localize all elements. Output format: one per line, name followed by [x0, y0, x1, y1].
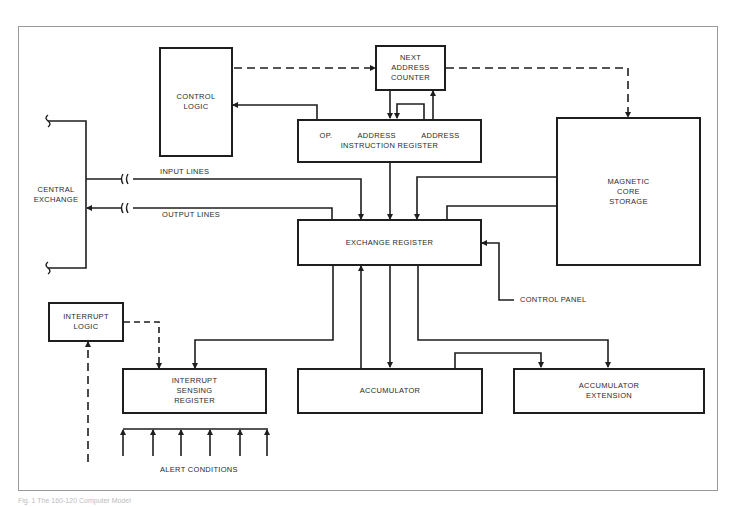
accumulator-label: ACCUMULATOR — [360, 386, 421, 396]
ir-field-address-2: ADDRESS — [421, 131, 459, 141]
accumulator-extension-label: ACCUMULATOR EXTENSION — [579, 381, 640, 401]
next-address-counter-block: NEXT ADDRESS COUNTER — [375, 45, 446, 91]
interrupt-sensing-register-block: INTERRUPT SENSING REGISTER — [122, 368, 267, 414]
control-logic-block: CONTROL LOGIC — [159, 47, 233, 157]
exchange-register-label: EXCHANGE REGISTER — [346, 238, 434, 248]
instruction-register-block: OP. ADDRESS ADDRESS INSTRUCTION REGISTER — [297, 119, 482, 163]
ir-field-address-1: ADDRESS — [358, 131, 396, 141]
figure-caption: Fig. 1 The 160-120 Computer Model — [18, 497, 131, 504]
interrupt-logic-label: INTERRUPT LOGIC — [63, 312, 109, 332]
output-lines-label: OUTPUT LINES — [162, 210, 220, 220]
ir-field-op: OP. — [320, 131, 333, 141]
alert-conditions-label: ALERT CONDITIONS — [160, 465, 238, 475]
interrupt-logic-block: INTERRUPT LOGIC — [48, 302, 124, 342]
accumulator-block: ACCUMULATOR — [297, 368, 483, 414]
dashed-line-nac-to-core — [446, 68, 628, 117]
instruction-register-label: INSTRUCTION REGISTER — [341, 141, 439, 151]
control-logic-label: CONTROL LOGIC — [177, 92, 216, 112]
magnetic-core-storage-block: MAGNETIC CORE STORAGE — [556, 117, 701, 266]
interrupt-sensing-register-label: INTERRUPT SENSING REGISTER — [172, 376, 218, 406]
next-address-counter-label: NEXT ADDRESS COUNTER — [391, 53, 430, 83]
line-ir-to-control — [233, 105, 317, 119]
accumulator-extension-block: ACCUMULATOR EXTENSION — [513, 368, 705, 414]
diagram-canvas: CONTROL LOGIC NEXT ADDRESS COUNTER OP. A… — [0, 0, 738, 507]
magnetic-core-storage-label: MAGNETIC CORE STORAGE — [608, 177, 650, 207]
exchange-register-block: EXCHANGE REGISTER — [297, 219, 482, 266]
central-exchange-label: CENTRAL EXCHANGE — [30, 185, 82, 205]
control-panel-label: CONTROL PANEL — [520, 295, 586, 305]
instruction-register-fields: OP. ADDRESS ADDRESS — [320, 131, 460, 141]
input-lines-label: INPUT LINES — [160, 167, 209, 177]
